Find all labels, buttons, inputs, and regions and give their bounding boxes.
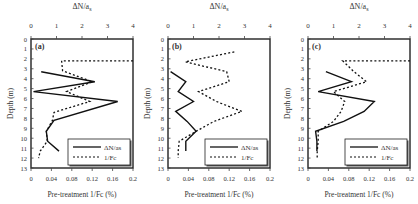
bottom-axis-title: Pre-treatment 1/Fc (%) — [184, 190, 254, 199]
top-tick-label: 2 — [357, 22, 361, 30]
bottom-tick-label: 0.08 — [66, 175, 77, 182]
legend-entry: 1/Fc — [381, 154, 393, 162]
bottom-tick-label: 0.2 — [406, 175, 414, 182]
y-tick-label: 0 — [24, 36, 27, 43]
y-tick-label: 13 — [298, 165, 305, 172]
top-tick-label: 2 — [217, 22, 221, 30]
bottom-tick-label: 0.16 — [384, 175, 396, 182]
y-tick-label: 0 — [161, 36, 164, 43]
bottom-tick-label: 0.08 — [343, 175, 354, 182]
top-tick-label: 1 — [332, 22, 336, 30]
y-tick-label: 12 — [158, 155, 165, 162]
chart-panel-c: ΔN/as0123400.040.080.120.160.2Pre-treatm… — [283, 2, 414, 199]
top-tick-label: 3 — [243, 22, 247, 30]
y-tick-label: 6 — [301, 95, 305, 102]
top-tick-label: 3 — [383, 22, 387, 30]
y-tick-label: 11 — [21, 145, 27, 152]
panel-label: (c) — [312, 42, 321, 51]
y-tick-label: 12 — [298, 155, 305, 162]
bottom-tick-label: 0.2 — [266, 175, 274, 182]
top-tick-label: 1 — [55, 22, 59, 30]
chart-panel-a: ΔN/as0123400.040.080.120.160.2Pre-treatm… — [6, 2, 137, 199]
y-tick-label: 13 — [21, 165, 28, 172]
y-tick-label: 5 — [301, 85, 304, 92]
legend-entry: ΔN/as — [381, 144, 399, 152]
chart-panel-b: ΔN/as0123400.040.080.120.160.2Pre-treatm… — [143, 2, 274, 199]
y-tick-label: 2 — [301, 55, 304, 62]
y-tick-label: 0 — [301, 36, 304, 43]
top-axis-title: ΔN/as — [349, 2, 369, 12]
y-tick-label: 8 — [301, 115, 304, 122]
y-axis-title: Depth (m) — [6, 87, 15, 119]
y-tick-label: 4 — [24, 75, 28, 82]
top-tick-label: 1 — [192, 22, 196, 30]
legend-entry: 1/Fc — [104, 154, 116, 162]
y-tick-label: 7 — [161, 105, 165, 112]
y-tick-label: 1 — [24, 45, 27, 52]
bottom-axis-title: Pre-treatment 1/Fc (%) — [324, 190, 394, 199]
top-tick-label: 0 — [29, 22, 33, 30]
top-tick-label: 4 — [131, 22, 135, 30]
y-tick-label: 7 — [24, 105, 28, 112]
bottom-tick-label: 0.04 — [46, 175, 58, 182]
y-tick-label: 10 — [158, 135, 165, 142]
y-tick-label: 10 — [21, 135, 28, 142]
bottom-tick-label: 0 — [306, 175, 309, 182]
legend-entry: ΔN/as — [241, 144, 259, 152]
y-tick-label: 1 — [161, 45, 164, 52]
bottom-tick-label: 0.16 — [107, 175, 119, 182]
chart-figure: ΔN/as0123400.040.080.120.160.2Pre-treatm… — [0, 0, 418, 204]
y-tick-label: 12 — [21, 155, 28, 162]
bottom-tick-label: 0.04 — [183, 175, 195, 182]
y-tick-label: 8 — [161, 115, 164, 122]
top-tick-label: 4 — [408, 22, 412, 30]
y-tick-label: 5 — [161, 85, 164, 92]
panel-label: (a) — [35, 42, 45, 51]
y-tick-label: 2 — [24, 55, 27, 62]
bottom-tick-label: 0.12 — [87, 175, 98, 182]
bottom-tick-label: 0.2 — [129, 175, 137, 182]
y-tick-label: 9 — [301, 125, 304, 132]
y-tick-label: 5 — [24, 85, 27, 92]
top-tick-label: 3 — [106, 22, 110, 30]
y-axis-title: Depth (m) — [283, 87, 292, 119]
bottom-tick-label: 0 — [29, 175, 32, 182]
y-tick-label: 8 — [24, 115, 27, 122]
y-tick-label: 4 — [301, 75, 305, 82]
bottom-tick-label: 0.08 — [203, 175, 214, 182]
y-tick-label: 9 — [24, 125, 27, 132]
y-tick-label: 11 — [298, 145, 304, 152]
legend-entry: ΔN/as — [104, 144, 122, 152]
top-axis-title: ΔN/as — [209, 2, 229, 12]
y-tick-label: 6 — [24, 95, 28, 102]
y-tick-label: 6 — [161, 95, 165, 102]
bottom-tick-label: 0.16 — [244, 175, 256, 182]
y-tick-label: 13 — [158, 165, 165, 172]
y-tick-label: 3 — [301, 65, 304, 72]
y-tick-label: 3 — [24, 65, 27, 72]
y-tick-label: 7 — [301, 105, 305, 112]
bottom-tick-label: 0.12 — [224, 175, 235, 182]
y-tick-label: 4 — [161, 75, 165, 82]
top-tick-label: 4 — [268, 22, 272, 30]
y-tick-label: 1 — [301, 45, 304, 52]
y-tick-label: 11 — [158, 145, 164, 152]
bottom-tick-label: 0.12 — [364, 175, 375, 182]
y-tick-label: 3 — [161, 65, 164, 72]
y-tick-label: 2 — [161, 55, 164, 62]
y-tick-label: 10 — [298, 135, 305, 142]
bottom-tick-label: 0 — [166, 175, 169, 182]
bottom-tick-label: 0.04 — [323, 175, 335, 182]
top-axis-title: ΔN/as — [72, 2, 92, 12]
top-tick-label: 2 — [80, 22, 84, 30]
panel-label: (b) — [172, 42, 182, 51]
y-tick-label: 9 — [161, 125, 164, 132]
top-tick-label: 0 — [306, 22, 310, 30]
bottom-axis-title: Pre-treatment 1/Fc (%) — [47, 190, 117, 199]
legend-entry: 1/Fc — [241, 154, 253, 162]
top-tick-label: 0 — [166, 22, 170, 30]
y-axis-title: Depth (m) — [143, 87, 152, 119]
